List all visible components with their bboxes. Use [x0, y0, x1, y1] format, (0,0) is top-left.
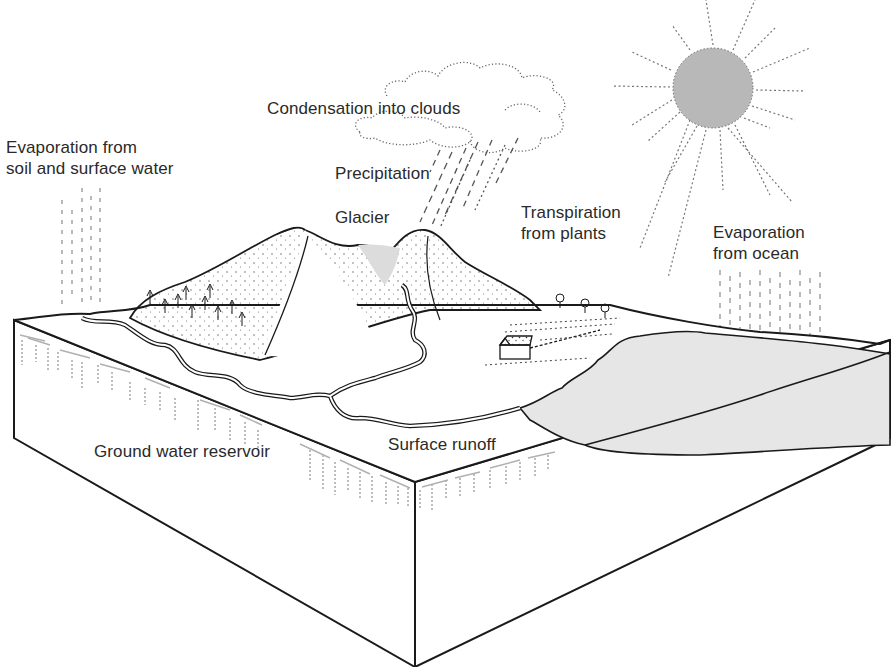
label-ground-water: Ground water reservoir	[94, 441, 270, 462]
rain-icon	[420, 138, 518, 228]
evaporation-soil-marks	[62, 188, 100, 310]
label-condensation: Condensation into clouds	[267, 98, 460, 119]
label-evaporation-ocean-line1: Evaporation	[713, 222, 805, 243]
label-surface-runoff: Surface runoff	[388, 434, 496, 455]
label-transpiration-line1: Transpiration	[521, 202, 621, 223]
label-evaporation-soil: Evaporation from soil and surface water	[6, 137, 174, 179]
label-glacier: Glacier	[335, 207, 390, 228]
label-evaporation-ocean: Evaporation from ocean	[713, 222, 805, 264]
label-evaporation-soil-line1: Evaporation from	[6, 137, 174, 158]
label-evaporation-ocean-line2: from ocean	[713, 243, 805, 264]
label-evaporation-soil-line2: soil and surface water	[6, 158, 174, 179]
label-transpiration: Transpiration from plants	[521, 202, 621, 244]
label-transpiration-line2: from plants	[521, 223, 621, 244]
label-precipitation: Precipitation	[335, 163, 430, 184]
